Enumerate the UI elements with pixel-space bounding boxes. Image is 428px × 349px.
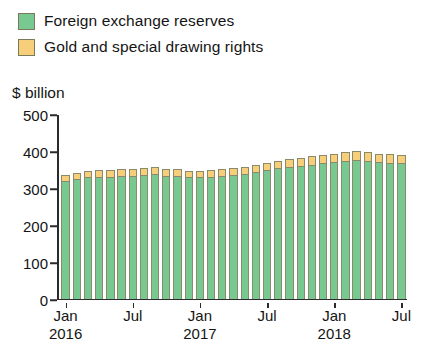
bar-segment-foreign-exchange-reserves xyxy=(375,162,383,299)
y-tick-mark xyxy=(50,225,57,227)
y-tick-label: 500 xyxy=(23,107,48,124)
bar-segment-foreign-exchange-reserves xyxy=(129,176,137,299)
bar-segment-foreign-exchange-reserves xyxy=(285,167,293,298)
bar xyxy=(274,161,282,299)
bar xyxy=(162,169,170,299)
bar-segment-gold-and-special-drawing-rights xyxy=(308,156,316,164)
bar-segment-gold-and-special-drawing-rights xyxy=(207,170,215,177)
bar-segment-gold-and-special-drawing-rights xyxy=(364,152,372,161)
x-axis-line xyxy=(57,299,407,301)
bar xyxy=(297,158,305,299)
x-axis-ticks: Jan2016JulJan2017JulJan2018Jul xyxy=(57,303,407,347)
bar-segment-foreign-exchange-reserves xyxy=(274,168,282,298)
bar xyxy=(352,151,360,299)
bar-segment-foreign-exchange-reserves xyxy=(297,166,305,299)
bar-segment-gold-and-special-drawing-rights xyxy=(140,168,148,175)
legend-swatch-foreign-exchange-reserves xyxy=(18,13,35,30)
bar-segment-gold-and-special-drawing-rights xyxy=(117,169,125,176)
bar xyxy=(84,171,92,299)
bar-segment-gold-and-special-drawing-rights xyxy=(95,170,103,177)
bar xyxy=(173,169,181,298)
legend-label-gold-and-special-drawing-rights: Gold and special drawing rights xyxy=(44,38,263,56)
bar-group xyxy=(60,115,407,299)
bar-segment-gold-and-special-drawing-rights xyxy=(241,167,249,174)
chart-container: Foreign exchange reserves Gold and speci… xyxy=(0,0,428,349)
bar-segment-gold-and-special-drawing-rights xyxy=(218,169,226,176)
bar xyxy=(117,169,125,298)
bar-segment-gold-and-special-drawing-rights xyxy=(330,154,338,162)
bar xyxy=(151,167,159,298)
bar xyxy=(196,171,204,299)
bar-segment-foreign-exchange-reserves xyxy=(352,160,360,299)
bar-segment-gold-and-special-drawing-rights xyxy=(319,155,327,163)
x-tick-label: Jan2018 xyxy=(318,307,351,342)
bar xyxy=(341,152,349,299)
bar xyxy=(106,170,114,298)
y-tick-label: 0 xyxy=(40,292,48,309)
bar-segment-foreign-exchange-reserves xyxy=(106,177,114,299)
y-tick-mark xyxy=(50,262,57,264)
x-tick-month: Jul xyxy=(123,307,142,324)
bar-segment-gold-and-special-drawing-rights xyxy=(297,158,305,166)
bar xyxy=(61,175,69,298)
bar xyxy=(241,167,249,299)
bar-segment-gold-and-special-drawing-rights xyxy=(263,163,271,170)
y-axis-unit-label: $ billion xyxy=(12,84,65,102)
x-tick-month: Jan xyxy=(188,307,212,324)
x-tick-label: Jan2016 xyxy=(49,307,82,342)
x-tick-year: 2016 xyxy=(49,325,82,342)
bar-segment-foreign-exchange-reserves xyxy=(84,177,92,298)
bar-segment-foreign-exchange-reserves xyxy=(397,163,405,298)
x-tick-label: Jan2017 xyxy=(183,307,216,342)
x-tick-year: 2017 xyxy=(183,325,216,342)
y-tick-mark xyxy=(50,299,57,301)
bar-segment-foreign-exchange-reserves xyxy=(252,172,260,299)
legend-swatch-gold-and-special-drawing-rights xyxy=(18,39,35,56)
bar-segment-foreign-exchange-reserves xyxy=(218,176,226,299)
bar-segment-gold-and-special-drawing-rights xyxy=(341,152,349,161)
x-tick-label: Jul xyxy=(257,307,276,324)
bar-segment-gold-and-special-drawing-rights xyxy=(375,154,383,162)
bar xyxy=(319,155,327,298)
bar-segment-foreign-exchange-reserves xyxy=(162,176,170,299)
bar-segment-foreign-exchange-reserves xyxy=(117,176,125,298)
bar xyxy=(129,169,137,299)
y-tick-label: 400 xyxy=(23,144,48,161)
y-tick-mark xyxy=(50,151,57,153)
x-tick-month: Jul xyxy=(257,307,276,324)
bar-segment-gold-and-special-drawing-rights xyxy=(173,169,181,176)
bar-segment-gold-and-special-drawing-rights xyxy=(386,154,394,162)
bar-segment-foreign-exchange-reserves xyxy=(196,177,204,298)
bar-segment-foreign-exchange-reserves xyxy=(61,181,69,298)
bar-segment-gold-and-special-drawing-rights xyxy=(106,170,114,177)
bar xyxy=(207,170,215,298)
legend-item-gold-and-special-drawing-rights: Gold and special drawing rights xyxy=(18,34,263,60)
bar-segment-gold-and-special-drawing-rights xyxy=(196,171,204,178)
y-tick-label: 200 xyxy=(23,218,48,235)
bar xyxy=(185,171,193,299)
bar xyxy=(386,154,394,298)
bar-segment-foreign-exchange-reserves xyxy=(386,163,394,299)
bar-segment-foreign-exchange-reserves xyxy=(73,179,81,298)
bar-segment-gold-and-special-drawing-rights xyxy=(162,169,170,176)
bar-segment-gold-and-special-drawing-rights xyxy=(397,155,405,163)
bar-segment-foreign-exchange-reserves xyxy=(229,175,237,299)
bar-segment-foreign-exchange-reserves xyxy=(95,177,103,299)
bar-segment-foreign-exchange-reserves xyxy=(341,161,349,299)
bar-segment-gold-and-special-drawing-rights xyxy=(129,169,137,176)
bar xyxy=(95,170,103,298)
bar-segment-foreign-exchange-reserves xyxy=(364,161,372,299)
bar xyxy=(308,156,316,298)
bar xyxy=(73,173,81,299)
bar xyxy=(285,159,293,298)
bar-segment-gold-and-special-drawing-rights xyxy=(151,167,159,174)
bar-segment-gold-and-special-drawing-rights xyxy=(84,171,92,178)
y-axis-line xyxy=(57,115,59,300)
bar xyxy=(330,154,338,299)
x-tick-month: Jan xyxy=(54,307,78,324)
bar-segment-gold-and-special-drawing-rights xyxy=(352,151,360,160)
x-tick-label: Jul xyxy=(123,307,142,324)
bar xyxy=(364,152,372,298)
bar-segment-foreign-exchange-reserves xyxy=(140,175,148,299)
bar xyxy=(252,165,260,299)
